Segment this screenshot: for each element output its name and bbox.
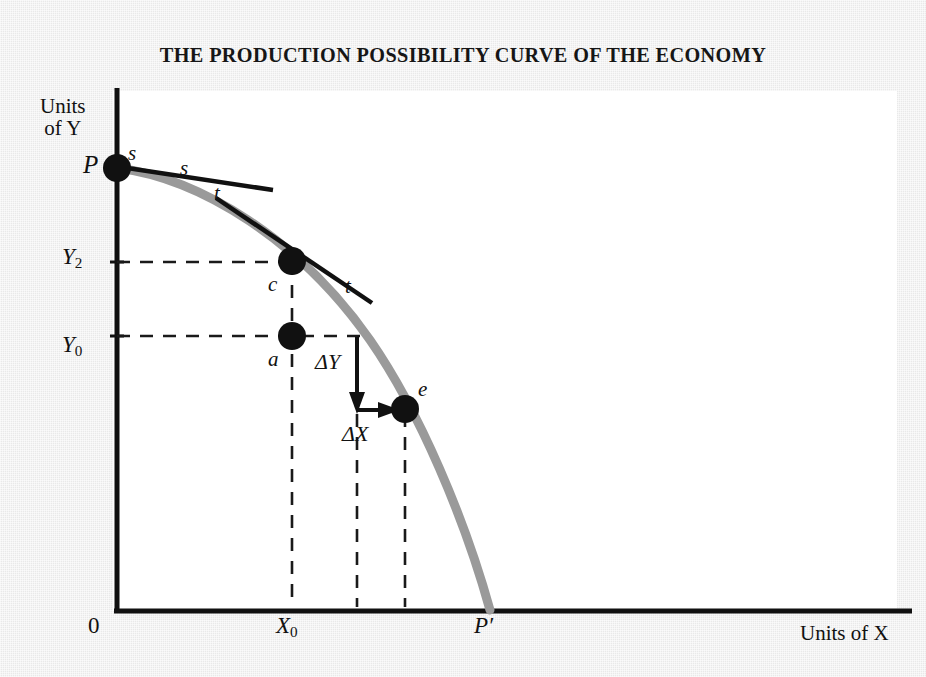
y-axis-title-line1: Unitsof Y bbox=[40, 94, 86, 140]
y-axis-title: Unitsof Y bbox=[40, 95, 86, 139]
delta-x-label: ΔX bbox=[342, 422, 368, 445]
origin-label: 0 bbox=[88, 614, 100, 638]
plot-background bbox=[113, 91, 897, 611]
y-tick-label-Y2: Y2 bbox=[62, 245, 82, 271]
tangent-label-t-right: t bbox=[345, 275, 351, 297]
y-tick-label-Y0-main: Y bbox=[62, 332, 75, 357]
tangent-label-s-right: s bbox=[180, 157, 188, 179]
y-tick-label-Y0-sub: 0 bbox=[75, 342, 83, 359]
delta-y-label: ΔY bbox=[315, 350, 340, 373]
tangent-label-s-left: s bbox=[128, 142, 136, 164]
chart-title: THE PRODUCTION POSSIBILITY CURVE OF THE … bbox=[37, 42, 889, 68]
point-label-P-prime: P′ bbox=[474, 614, 493, 638]
x-tick-label-X0: X0 bbox=[276, 614, 298, 640]
tangent-label-t-left: t bbox=[214, 182, 220, 204]
data-point-P[interactable] bbox=[103, 154, 131, 182]
data-point-e[interactable] bbox=[391, 395, 419, 423]
y-tick-label-Y2-main: Y bbox=[62, 244, 75, 269]
x-axis-title: Units of X bbox=[800, 622, 889, 644]
y-tick-label-Y2-sub: 2 bbox=[75, 254, 83, 271]
point-label-c: c bbox=[268, 273, 277, 295]
point-label-e: e bbox=[418, 378, 427, 400]
point-label-a: a bbox=[268, 348, 279, 370]
point-label-P: P bbox=[83, 152, 98, 178]
ppc-figure: THE PRODUCTION POSSIBILITY CURVE OF THE … bbox=[0, 0, 926, 677]
x-tick-label-X0-sub: 0 bbox=[290, 623, 298, 640]
x-tick-label-X0-main: X bbox=[276, 613, 290, 638]
data-point-a[interactable] bbox=[278, 322, 306, 350]
data-point-c[interactable] bbox=[278, 247, 306, 275]
ppc-chart-svg bbox=[0, 0, 926, 677]
y-tick-label-Y0: Y0 bbox=[62, 333, 82, 359]
